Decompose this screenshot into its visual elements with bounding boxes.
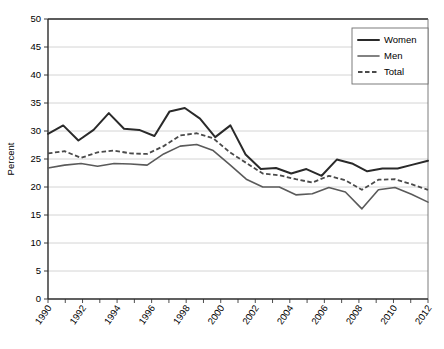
y-tick-label: 30 xyxy=(30,125,41,136)
y-tick-label: 15 xyxy=(30,209,41,220)
x-tick-label: 2008 xyxy=(343,303,364,327)
x-tick-label: 2000 xyxy=(205,303,226,327)
x-tick-label: 2006 xyxy=(309,303,330,327)
line-chart: 0510152025303540455019901992199419961998… xyxy=(0,0,444,349)
x-tick-label: 1994 xyxy=(102,303,123,327)
series-group xyxy=(48,108,428,209)
series-line-men xyxy=(48,144,428,208)
y-tick-label: 50 xyxy=(30,13,41,24)
chart-container: 0510152025303540455019901992199419961998… xyxy=(0,0,444,349)
x-tick-label: 2012 xyxy=(413,303,434,327)
legend: WomenMenTotal xyxy=(352,28,428,84)
y-tick-label: 0 xyxy=(36,293,41,304)
x-axis: 1990199219941996199820002002200420062008… xyxy=(33,299,434,326)
y-tick-label: 5 xyxy=(36,265,41,276)
x-tick-label: 2010 xyxy=(378,303,399,327)
x-tick-label: 1990 xyxy=(33,303,54,327)
y-tick-label: 35 xyxy=(30,97,41,108)
y-tick-label: 20 xyxy=(30,181,41,192)
y-axis-title: Percent xyxy=(5,142,16,175)
x-tick-label: 2002 xyxy=(240,303,261,327)
x-tick-label: 1992 xyxy=(67,303,88,327)
x-tick-label: 1996 xyxy=(136,303,157,327)
legend-label-men: Men xyxy=(384,50,402,61)
legend-label-total: Total xyxy=(384,66,404,77)
y-tick-label: 40 xyxy=(30,69,41,80)
x-tick-label: 1998 xyxy=(171,303,192,327)
y-tick-label: 10 xyxy=(30,237,41,248)
x-tick-label: 2004 xyxy=(274,303,295,327)
y-tick-label: 25 xyxy=(30,153,41,164)
y-tick-label: 45 xyxy=(30,41,41,52)
legend-label-women: Women xyxy=(384,34,417,45)
